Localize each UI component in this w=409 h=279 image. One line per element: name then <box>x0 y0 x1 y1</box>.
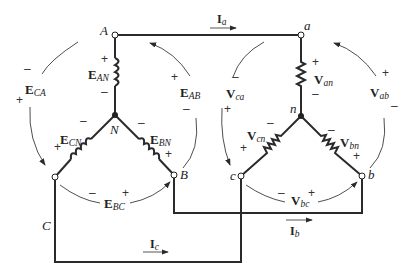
arc-vab-upper <box>334 43 376 76</box>
terminal-A <box>112 32 118 38</box>
svg-text:–: – <box>232 70 239 84</box>
source-neutral-dot <box>112 112 118 118</box>
svg-text:–: – <box>183 102 190 116</box>
terminal-B <box>171 172 177 178</box>
arc-eca-upper <box>42 42 78 74</box>
label-E-AB: EAB <box>180 85 200 101</box>
svg-text:+: + <box>16 93 23 107</box>
svg-text:+: + <box>122 186 129 200</box>
svg-text:+: + <box>54 140 61 154</box>
label-E-CN: ECN <box>60 132 82 148</box>
svg-text:+: + <box>353 149 360 163</box>
svg-text:+: + <box>312 55 319 69</box>
arc-vbc-right <box>318 182 357 202</box>
svg-text:+: + <box>101 52 108 66</box>
svg-text:–: – <box>24 62 31 76</box>
label-V-an: Van <box>314 72 333 88</box>
svg-text:–: – <box>312 87 319 101</box>
arc-eca-lower <box>30 107 45 165</box>
label-I-a: Ia <box>217 12 227 27</box>
line-b-wire <box>174 176 362 213</box>
svg-text:–: – <box>89 186 96 200</box>
label-I-b: Ib <box>290 224 300 239</box>
svg-text:+: + <box>308 186 315 200</box>
node-label-a: a <box>304 18 311 33</box>
terminal-C <box>52 174 58 180</box>
label-V-cn: Vcn <box>247 128 266 144</box>
arc-vab-lower <box>370 118 385 168</box>
svg-text:+: + <box>165 147 172 161</box>
svg-text:+: + <box>224 102 231 116</box>
svg-text:–: – <box>138 116 145 130</box>
node-label-n: n <box>290 101 297 116</box>
node-label-A: A <box>99 23 108 38</box>
svg-text:–: – <box>391 99 398 113</box>
node-label-c: c <box>230 168 236 183</box>
svg-text:–: – <box>80 114 87 128</box>
node-label-N: N <box>109 122 120 137</box>
label-I-c: Ic <box>150 237 160 252</box>
svg-text:–: – <box>328 123 335 137</box>
line-c-wire <box>55 176 241 262</box>
label-E-AN: EAN <box>88 67 109 83</box>
arc-eab-lower <box>183 118 197 168</box>
arc-eab-upper <box>150 43 190 76</box>
node-label-b: b <box>368 167 375 182</box>
node-label-B: B <box>180 167 188 182</box>
svg-text:+: + <box>240 141 247 155</box>
arc-vca-lower <box>222 108 230 165</box>
terminal-c <box>238 173 244 179</box>
circuit-diagram: A B C N a b c n EAN EBN ECN EAB EBC ECA … <box>0 0 409 279</box>
svg-text:–: – <box>267 116 274 130</box>
load-phase-a-resistor <box>297 35 305 116</box>
arc-ebc-right <box>130 182 170 203</box>
svg-text:+: + <box>382 66 389 80</box>
label-V-ab: Vab <box>370 85 389 101</box>
label-V-ca: Vca <box>226 86 245 102</box>
label-E-CA: ECA <box>25 82 46 98</box>
node-label-C: C <box>42 218 51 233</box>
svg-text:–: – <box>101 85 108 99</box>
label-E-BN: EBN <box>150 132 171 148</box>
svg-text:+: + <box>171 70 178 84</box>
source-phase-a-coil <box>115 35 119 115</box>
terminal-b <box>359 173 365 179</box>
load-neutral-dot <box>298 113 304 119</box>
svg-text:–: – <box>278 186 285 200</box>
polarity-signs: + – – + + – – + – + – + + – – + + – – + … <box>16 52 398 200</box>
